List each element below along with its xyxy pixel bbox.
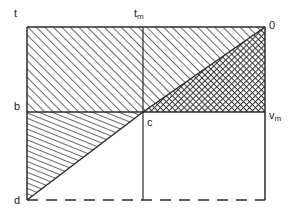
label-zero: 0 xyxy=(269,20,275,31)
label-t: t xyxy=(14,8,17,19)
label-vm: vm xyxy=(269,110,281,121)
geometric-diagram xyxy=(0,0,300,219)
region-upper-left xyxy=(27,27,143,112)
label-b: b xyxy=(14,101,20,112)
label-c: c xyxy=(147,117,153,128)
label-tm: tm xyxy=(134,8,144,19)
label-d: d xyxy=(14,195,20,206)
